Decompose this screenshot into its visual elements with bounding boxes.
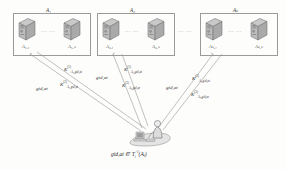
key-superscript: (1) [127,65,131,69]
edge-label-group2-key1: K(1)A₂,gid,at [124,66,142,74]
server-tower-icon [146,17,166,43]
group-2-ellipsis: ... ... [125,27,139,33]
node-a1-n[interactable] [62,17,82,43]
edge-label-group1-request: gid,at [36,86,48,91]
node-a1-n-label: A₁,ₙ [68,44,76,49]
key-subscript: Aₖ,gid,at [198,95,209,99]
edge-group1-key [37,52,146,129]
edge-label-groupk-key2: K(2)Aₖ,gid,at [191,91,209,99]
key-subscript: Aₖ,gid,at [199,79,210,83]
key-subscript: A₁,gid,at [71,70,82,74]
node-ak-1[interactable] [204,17,224,43]
server-tower-icon [17,17,37,43]
key-superscript: (2) [194,90,198,94]
node-a2-n[interactable] [146,17,166,43]
edge-label-group1-key2: K(2)A₁,gid,at [60,81,78,89]
edge-label-group2-request: gid,at [96,75,108,80]
key-superscript: (2) [125,81,129,85]
authority-group-2-title: A₂ [130,7,135,13]
key-subscript: A₁,gid,at [67,85,78,89]
server-tower-icon [101,17,121,43]
server-tower-icon [62,17,82,43]
server-tower-icon [204,17,224,43]
node-ak-n[interactable] [249,17,269,43]
authority-group-k-title: Aₖ [233,7,238,13]
authority-group-1-title: A₁ [46,7,51,13]
key-subscript: A₂,gid,at [129,86,140,90]
node-ak-n-label: Aₖ,ₙ [255,44,263,49]
group-k-ellipsis: ... ... [228,27,242,33]
group-1-ellipsis: ... ... [41,27,55,33]
caption-prefix: gid,at ∈ T [111,151,135,157]
edge-label-group2-key2: K(2)A₂,gid,at [122,82,140,90]
node-a2-1[interactable] [101,17,121,43]
server-tower-icon [249,17,269,43]
node-ak-1-label: Aₖ,₁ [209,44,217,49]
edge-group2-key [122,54,148,126]
edge-label-groupk-key1: K(1)Aₖ,gid,at [192,75,210,83]
key-superscript: (1) [67,65,71,69]
caption-subscript: i [135,155,136,159]
key-superscript: (2) [63,80,67,84]
node-a2-n-label: A₂,ₙ [152,44,160,49]
caption-suffix: (Aⱼ) [139,151,147,157]
node-a2-1-label: A₂,₁ [106,44,113,49]
node-a1-1-label: A₁,₁ [22,44,29,49]
edge-label-groupk-request: gid,at [166,85,178,90]
group-separator-ellipsis: ... ... [178,27,192,33]
node-a1-1[interactable] [17,17,37,43]
diagram-canvas: A₁ A₁,₁ ... ... [0,0,285,170]
key-subscript: A₂,gid,at [131,70,142,74]
edge-label-group1-key1: K(1)A₁,gid,at [64,66,82,74]
key-superscript: (1) [195,74,199,78]
user-caption: gid,at ∈ Ti-1(Aⱼ) [111,150,147,159]
user-at-desk-icon [124,119,176,151]
